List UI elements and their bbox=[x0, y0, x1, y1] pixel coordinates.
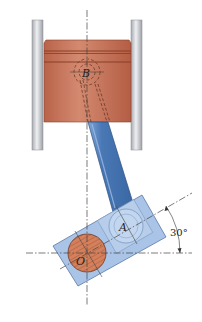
cylinder-wall-right bbox=[131, 20, 142, 150]
crank bbox=[53, 195, 166, 286]
cylinder-wall-left bbox=[32, 20, 43, 150]
piston bbox=[44, 40, 131, 122]
piston-crank-diagram: B A O 30° bbox=[0, 0, 202, 322]
label-B: B bbox=[81, 67, 90, 80]
label-angle: 30° bbox=[170, 227, 188, 238]
label-A: A bbox=[118, 221, 127, 234]
label-O: O bbox=[76, 255, 85, 268]
